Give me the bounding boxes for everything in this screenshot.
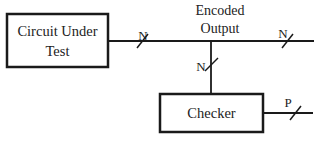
cut-out-width-label: N	[138, 28, 148, 43]
checker-input-branch: N	[196, 41, 218, 94]
cut-label-line2: Test	[46, 43, 70, 59]
checker-out-width-label: P	[284, 95, 291, 110]
checker-label: Checker	[187, 105, 235, 121]
checker-block: Checker	[160, 94, 263, 132]
encoded-output-label-line2: Output	[201, 21, 240, 36]
circuit-under-test-block: Circuit Under Test	[7, 14, 108, 67]
encoded-output-label-line1: Encoded	[196, 3, 245, 18]
branch-width-label: N	[196, 59, 206, 74]
checker-block-diagram: Circuit Under Test N N Encoded Output N …	[0, 0, 320, 143]
main-out-width-label: N	[278, 26, 288, 41]
cut-label-line1: Circuit Under	[17, 23, 97, 39]
checker-output-bus: P	[263, 95, 313, 120]
